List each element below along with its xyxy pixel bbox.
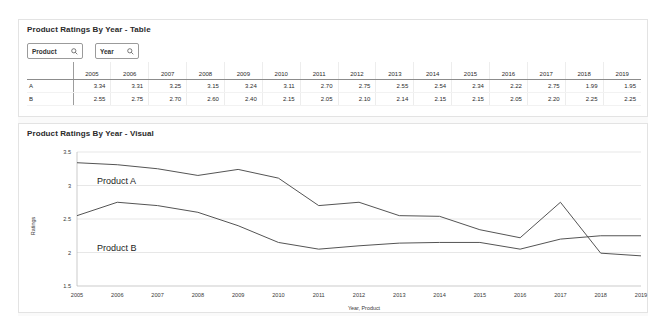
chart-label-product-b: Product B — [97, 243, 137, 253]
chart-y-tick-label: 1.5 — [63, 283, 71, 289]
table-column-header-2012: 2012 — [338, 62, 376, 79]
chart-x-tick-label: 2006 — [111, 292, 123, 298]
chart-x-tick-label: 2017 — [554, 292, 566, 298]
table-cell: 2.22 — [489, 79, 527, 92]
table-corner-header — [27, 62, 73, 79]
table-row-label-B: B — [27, 92, 73, 105]
chart-x-tick-label: 2018 — [594, 292, 606, 298]
table-column-header-2016: 2016 — [489, 62, 527, 79]
table-column-header-2009: 2009 — [224, 62, 262, 79]
filter-button-product[interactable]: Product — [27, 43, 83, 59]
table-column-header-2006: 2006 — [111, 62, 149, 79]
chart-y-axis-title: Ratings — [30, 217, 36, 236]
chart-series-group — [77, 163, 641, 256]
table-cell: 3.34 — [73, 79, 111, 92]
line-chart-svg: 3.532.521.5 2005200620072008200920102011… — [19, 138, 649, 314]
table-cell: 2.70 — [300, 79, 338, 92]
table-column-header-2013: 2013 — [376, 62, 414, 79]
table-cell: 2.05 — [300, 92, 338, 105]
table-cell: 2.55 — [376, 79, 414, 92]
chart-series-labels: Product AProduct B — [97, 176, 137, 253]
table-column-header-2010: 2010 — [262, 62, 300, 79]
table-column-header-2015: 2015 — [452, 62, 490, 79]
table-cell: 2.15 — [414, 92, 452, 105]
table-cell: 2.15 — [262, 92, 300, 105]
filter-button-product-label: Product — [32, 48, 57, 55]
chart-x-tick-label: 2013 — [393, 292, 405, 298]
table-header: 2005200620072008200920102011201220132014… — [27, 62, 641, 79]
chart-x-tick-label: 2014 — [433, 292, 445, 298]
visual-panel: Product Ratings By Year - Visual 3.532.5… — [18, 123, 648, 313]
table-cell: 2.70 — [149, 92, 187, 105]
chart-x-tick-label: 2012 — [353, 292, 365, 298]
chart-series-product-b — [77, 202, 641, 249]
search-icon — [71, 48, 78, 55]
table-cell: 2.75 — [338, 79, 376, 92]
table-cell: 2.14 — [376, 92, 414, 105]
table-cell: 2.40 — [224, 92, 262, 105]
visual-panel-title: Product Ratings By Year - Visual — [19, 124, 647, 138]
table-column-header-2019: 2019 — [603, 62, 641, 79]
table-cell: 2.75 — [111, 92, 149, 105]
chart-x-tick-label: 2009 — [232, 292, 244, 298]
table-column-header-2014: 2014 — [414, 62, 452, 79]
table-cell: 2.25 — [565, 92, 603, 105]
table-row-label-A: A — [27, 79, 73, 92]
table-row: A3.343.313.253.153.243.112.702.752.552.5… — [27, 79, 641, 92]
line-chart: 3.532.521.5 2005200620072008200920102011… — [19, 138, 649, 314]
table-column-header-2011: 2011 — [300, 62, 338, 79]
table-cell: 3.24 — [224, 79, 262, 92]
chart-x-tick-label: 2015 — [474, 292, 486, 298]
table-cell: 3.25 — [149, 79, 187, 92]
chart-x-tick-label: 2005 — [71, 292, 83, 298]
table-cell: 3.11 — [262, 79, 300, 92]
table-cell: 2.05 — [489, 92, 527, 105]
filter-button-year[interactable]: Year — [95, 43, 139, 59]
table-cell: 3.15 — [187, 79, 225, 92]
ratings-table: 2005200620072008200920102011201220132014… — [27, 62, 641, 106]
table-cell: 1.95 — [603, 79, 641, 92]
chart-x-tick-label: 2019 — [635, 292, 647, 298]
chart-x-tick-label: 2008 — [192, 292, 204, 298]
table-cell: 2.54 — [414, 79, 452, 92]
table-cell: 3.31 — [111, 79, 149, 92]
table-cell: 2.60 — [187, 92, 225, 105]
chart-x-tick-label: 2016 — [514, 292, 526, 298]
table-column-header-2007: 2007 — [149, 62, 187, 79]
table-column-header-2018: 2018 — [565, 62, 603, 79]
filter-bar: Product Year — [27, 43, 139, 59]
table-header-row: 2005200620072008200920102011201220132014… — [27, 62, 641, 79]
table-column-header-2017: 2017 — [527, 62, 565, 79]
table-cell: 2.75 — [527, 79, 565, 92]
table-panel-title: Product Ratings By Year - Table — [19, 20, 647, 34]
table-row: B2.552.752.702.602.402.152.052.102.142.1… — [27, 92, 641, 105]
chart-x-tick-label: 2011 — [313, 292, 325, 298]
chart-y-tick-label: 3 — [68, 183, 71, 189]
table-cell: 2.10 — [338, 92, 376, 105]
table-cell: 2.25 — [603, 92, 641, 105]
chart-gridlines — [77, 152, 641, 286]
table-column-header-2008: 2008 — [187, 62, 225, 79]
chart-y-tick-label: 3.5 — [63, 149, 71, 155]
chart-y-tick-label: 2.5 — [63, 216, 71, 222]
chart-x-tick-label: 2007 — [151, 292, 163, 298]
table-cell: 2.15 — [452, 92, 490, 105]
table-column-header-2005: 2005 — [73, 62, 111, 79]
table-cell: 2.34 — [452, 79, 490, 92]
search-icon — [127, 48, 134, 55]
chart-x-axis-ticks: 2005200620072008200920102011201220132014… — [71, 292, 647, 298]
chart-y-axis-ticks: 3.532.521.5 — [63, 149, 71, 289]
chart-label-product-a: Product A — [97, 176, 136, 186]
table-cell: 2.20 — [527, 92, 565, 105]
chart-series-product-a — [77, 163, 641, 256]
page-root: Product Ratings By Year - Table Product … — [0, 0, 656, 321]
table-body: A3.343.313.253.153.243.112.702.752.552.5… — [27, 79, 641, 105]
table-cell: 2.55 — [73, 92, 111, 105]
ratings-table-container: 2005200620072008200920102011201220132014… — [27, 62, 641, 106]
filter-button-year-label: Year — [100, 48, 114, 55]
table-cell: 1.99 — [565, 79, 603, 92]
chart-x-tick-label: 2010 — [272, 292, 284, 298]
table-panel: Product Ratings By Year - Table Product … — [18, 19, 648, 117]
chart-y-tick-label: 2 — [68, 250, 71, 256]
chart-x-axis-title: Year, Product — [348, 305, 381, 311]
